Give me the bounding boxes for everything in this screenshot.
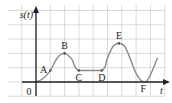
origin-label: 0	[27, 86, 32, 97]
curve-layer	[36, 43, 158, 82]
point-label-e: E	[116, 30, 122, 41]
axes	[22, 6, 170, 96]
point-marker-e	[118, 42, 121, 45]
displacement-curve	[36, 43, 158, 82]
x-axis-arrow-icon	[163, 79, 170, 85]
point-label-b: B	[61, 40, 68, 51]
y-axis-arrow-icon	[33, 6, 39, 13]
point-label-d: D	[98, 72, 105, 83]
point-marker-b	[63, 52, 66, 55]
x-axis-label: t	[160, 85, 163, 96]
point-label-c: C	[76, 72, 83, 83]
point-marker-a	[49, 69, 52, 72]
point-label-f: F	[140, 83, 146, 94]
y-axis-label: s(t)	[20, 9, 34, 21]
point-label-a: A	[40, 64, 48, 75]
displacement-time-graph: s(t) t 0 ABCDEF	[0, 0, 172, 103]
